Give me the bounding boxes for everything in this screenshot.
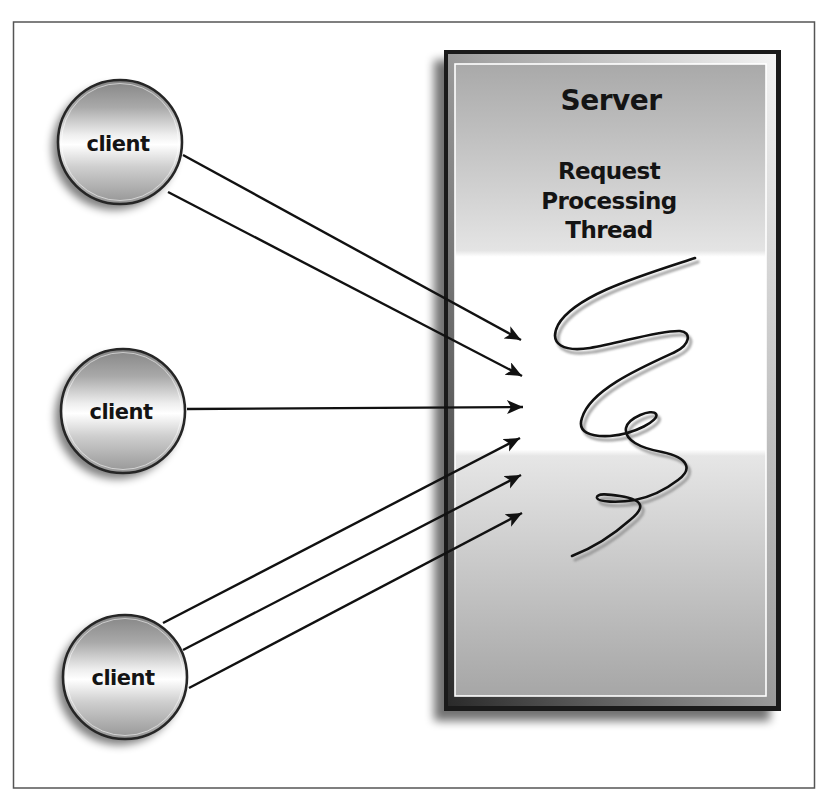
server-label-line-3: Thread [565, 217, 652, 243]
server-label-line-1: Request [558, 158, 661, 184]
client-node-3: client [57, 615, 187, 745]
client-node-1: client [52, 80, 182, 210]
thread-per-request-diagram: Server Request Processing Thread client … [0, 0, 829, 798]
client-2-label: client [89, 400, 153, 424]
server-title: Server [560, 84, 662, 117]
server-box: Server Request Processing Thread [434, 50, 781, 721]
client-3-label: client [91, 666, 155, 690]
server-label-line-2: Processing [541, 188, 676, 214]
client-1-label: client [86, 132, 150, 156]
client-node-2: client [55, 349, 185, 479]
